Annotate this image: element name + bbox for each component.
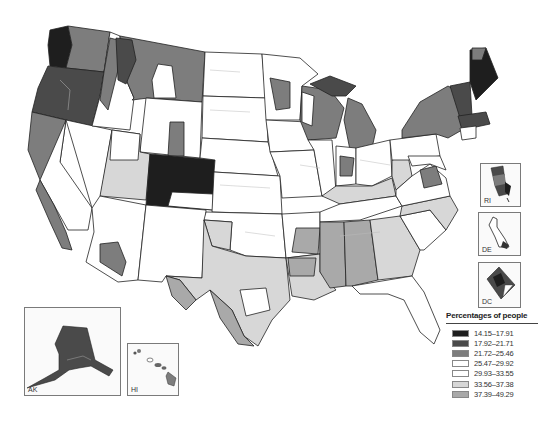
region-south-dakota — [202, 96, 268, 142]
region-indiana-center — [340, 156, 354, 176]
legend-title: Percentages of people — [446, 311, 538, 324]
region-wisconsin-west — [302, 92, 314, 126]
inset-alaska: AK — [24, 307, 121, 396]
legend-swatch — [452, 391, 469, 398]
legend: Percentages of people 14.15–17.91 17.92–… — [446, 311, 538, 399]
inset-delaware: DE — [478, 212, 521, 256]
legend-swatch — [452, 381, 469, 388]
region-washington-east — [66, 26, 110, 72]
legend-item: 37.39–49.29 — [452, 389, 538, 399]
region-louisiana-north — [288, 258, 316, 276]
legend-item: 25.47–29.92 — [452, 359, 538, 369]
region-north-dakota — [203, 52, 266, 98]
inset-label-de: DE — [482, 246, 492, 253]
legend-item: 17.92–21.71 — [452, 338, 538, 348]
inset-label-dc: DC — [482, 298, 492, 305]
region-ohio — [356, 140, 392, 186]
legend-swatch — [452, 350, 469, 357]
inset-rhode-island: RI — [480, 163, 521, 207]
legend-swatch — [452, 360, 469, 367]
inset-label-ri: RI — [484, 197, 491, 204]
inset-label-hi: HI — [131, 386, 138, 393]
legend-item: 33.56–37.38 — [452, 379, 538, 389]
region-michigan-lower — [344, 98, 376, 150]
legend-swatch — [452, 330, 469, 337]
inset-hawaii: HI — [127, 343, 179, 396]
inset-dc: DC — [478, 262, 521, 308]
region-connecticut — [460, 126, 476, 140]
legend-item: 14.15–17.91 — [452, 328, 538, 338]
alaska-shape — [27, 326, 113, 388]
region-new-mexico — [138, 205, 206, 282]
legend-item: 29.93–33.55 — [452, 369, 538, 379]
region-wyoming-south — [168, 122, 184, 156]
legend-swatch — [452, 370, 469, 377]
region-mississippi — [320, 222, 346, 288]
region-florida — [352, 276, 440, 344]
inset-label-ak: AK — [28, 386, 37, 393]
region-utah-north — [110, 130, 140, 160]
legend-item: 21.72–25.46 — [452, 348, 538, 358]
region-arkansas-east — [292, 228, 320, 254]
legend-swatch — [452, 340, 469, 347]
region-kansas — [212, 172, 282, 214]
region-virginia-north — [420, 166, 442, 188]
